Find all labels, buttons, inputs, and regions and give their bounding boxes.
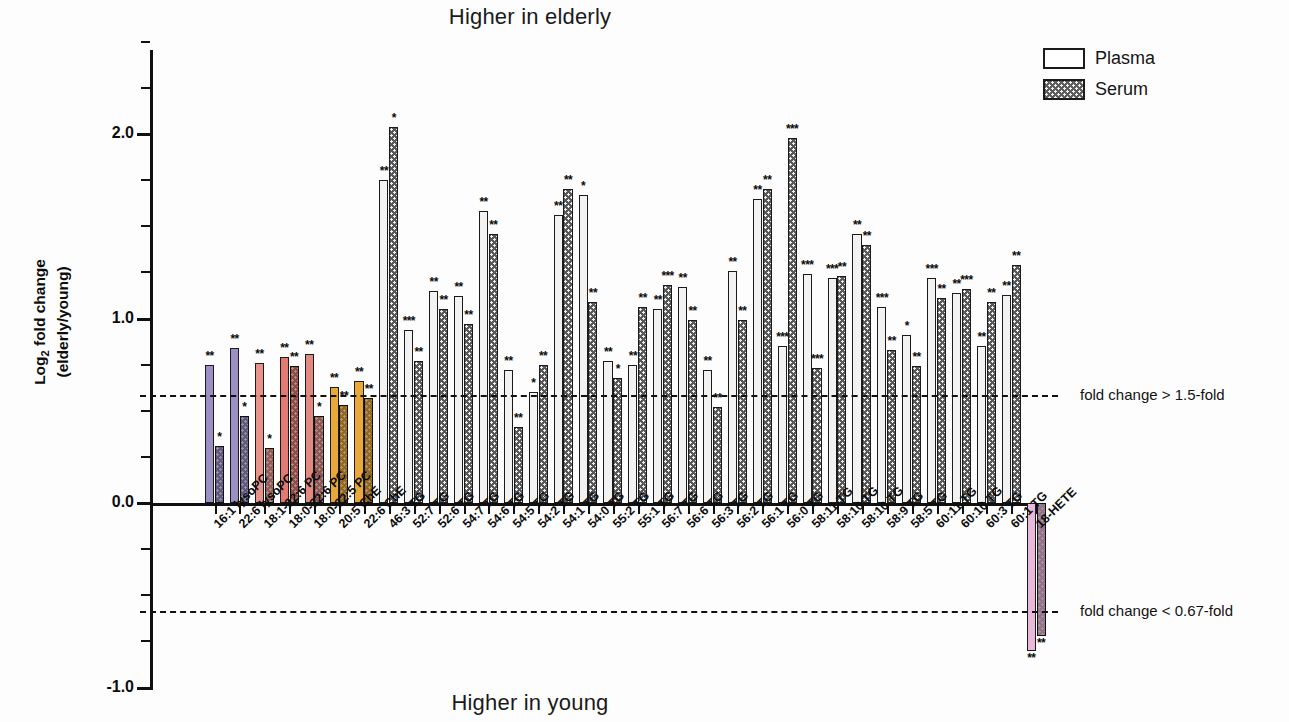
legend-swatch-plasma-icon [1043, 48, 1085, 69]
y-tick-label-1: 1.0 [78, 309, 134, 327]
bar-plasma-29 [927, 278, 936, 503]
legend-item-plasma[interactable]: Plasma [1043, 48, 1233, 69]
significance-marker-plasma-26: ** [847, 221, 866, 229]
bar-serum-9 [439, 309, 448, 503]
significance-marker-plasma-29: *** [922, 265, 941, 273]
bar-plasma-15 [579, 195, 588, 503]
y-tick--0.25 [141, 548, 150, 550]
significance-marker-serum-26: ** [857, 232, 876, 240]
x-axis-tick-0 [215, 506, 217, 514]
bar-serum-29 [937, 298, 946, 503]
significance-marker-serum-32: ** [1007, 252, 1026, 260]
significance-marker-serum-33: ** [1032, 639, 1051, 647]
bar-plasma-20 [703, 370, 712, 503]
y-tick-0 [137, 502, 150, 505]
y-axis-label-subscript: 2 [39, 350, 51, 356]
bar-plasma-26 [852, 234, 861, 503]
threshold-label-1: fold change < 0.67-fold [1080, 602, 1233, 619]
bar-serum-7 [389, 127, 398, 503]
significance-marker-plasma-21: ** [723, 258, 742, 266]
legend-item-serum[interactable]: Serum [1043, 79, 1233, 100]
bars-layer: ****************************************… [150, 50, 1030, 690]
significance-marker-serum-23: *** [783, 125, 802, 133]
bar-plasma-21 [728, 271, 737, 503]
bar-plasma-33 [1027, 503, 1036, 651]
y-tick-label-3: -1.0 [78, 678, 134, 696]
significance-marker-serum-11: ** [484, 221, 503, 229]
bar-plasma-25 [828, 278, 837, 503]
significance-marker-serum-3: ** [285, 353, 304, 361]
significance-marker-plasma-12: ** [499, 357, 518, 365]
significance-marker-serum-22: ** [758, 176, 777, 184]
significance-marker-plasma-24: *** [798, 261, 817, 269]
y-tick--0.5 [141, 594, 150, 596]
significance-marker-serum-9: ** [434, 296, 453, 304]
bar-serum-14 [563, 189, 572, 503]
bar-serum-24 [812, 368, 821, 503]
bar-plasma-13 [529, 392, 538, 503]
legend: Plasma Serum [1043, 48, 1233, 110]
significance-marker-serum-16: * [608, 365, 627, 373]
significance-marker-plasma-1: ** [225, 335, 244, 343]
bar-plasma-24 [803, 274, 812, 503]
bar-plasma-12 [504, 370, 513, 503]
bar-plasma-10 [454, 296, 463, 503]
significance-marker-plasma-16: ** [598, 348, 617, 356]
significance-marker-serum-4: * [309, 403, 328, 411]
significance-marker-serum-19: ** [683, 307, 702, 315]
significance-marker-serum-8: ** [409, 348, 428, 356]
y-tick-0.5 [141, 410, 150, 412]
y-tick-label-0: 2.0 [78, 124, 134, 142]
y-tick-2.25 [141, 87, 150, 89]
y-axis-label-line1: Log2 fold change [31, 259, 48, 385]
legend-label-serum: Serum [1095, 79, 1148, 100]
bar-plasma-32 [1002, 295, 1011, 503]
significance-marker-plasma-0: ** [200, 352, 219, 360]
bar-serum-15 [588, 302, 597, 503]
y-axis-label: Log2 fold change (elderly/young) [30, 192, 74, 452]
significance-marker-plasma-15: * [574, 182, 593, 190]
y-tick-0.25 [141, 456, 150, 458]
significance-marker-plasma-9: ** [424, 278, 443, 286]
threshold-line-1 [140, 611, 1058, 613]
y-tick--1 [137, 687, 150, 690]
bar-serum-13 [539, 365, 548, 503]
significance-marker-plasma-20: ** [698, 357, 717, 365]
bar-plasma-18 [653, 309, 662, 503]
bar-plasma-11 [479, 211, 488, 503]
chart-bottom-title: Higher in young [0, 690, 1060, 716]
significance-marker-serum-31: ** [982, 289, 1001, 297]
significance-marker-plasma-8: *** [399, 317, 418, 325]
bar-serum-23 [788, 138, 797, 503]
significance-marker-serum-15: ** [583, 289, 602, 297]
significance-marker-plasma-19: ** [673, 274, 692, 282]
bar-plasma-30 [952, 293, 961, 503]
bar-serum-8 [414, 361, 423, 503]
significance-marker-serum-6: ** [359, 385, 378, 393]
bar-plasma-17 [628, 365, 637, 503]
plot-area: ****************************************… [150, 50, 1030, 690]
significance-marker-plasma-5: ** [325, 374, 344, 382]
chart-figure: Higher in elderly Higher in young Log2 f… [0, 0, 1289, 722]
y-tick-2.5 [141, 41, 150, 43]
significance-marker-serum-12: ** [509, 414, 528, 422]
significance-marker-serum-2: * [260, 435, 279, 443]
legend-swatch-serum-icon [1043, 79, 1085, 100]
significance-marker-serum-25: ** [832, 263, 851, 271]
bar-plasma-16 [603, 361, 612, 503]
bar-serum-21 [738, 320, 747, 503]
y-tick-label-2: 0.0 [78, 493, 134, 511]
bar-serum-27 [887, 350, 896, 503]
bar-serum-25 [837, 276, 846, 503]
significance-marker-plasma-10: ** [449, 283, 468, 291]
significance-marker-serum-30: *** [957, 276, 976, 284]
significance-marker-plasma-28: * [897, 322, 916, 330]
y-tick-1.75 [141, 179, 150, 181]
significance-marker-serum-13: ** [534, 352, 553, 360]
significance-marker-serum-7: * [384, 114, 403, 122]
significance-marker-plasma-6: ** [349, 368, 368, 376]
bar-serum-19 [688, 320, 697, 503]
bar-serum-28 [912, 366, 921, 503]
threshold-line-0 [140, 395, 1058, 397]
bar-plasma-1 [230, 348, 239, 503]
